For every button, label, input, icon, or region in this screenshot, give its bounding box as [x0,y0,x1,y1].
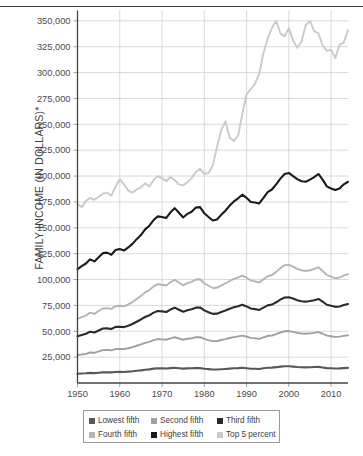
x-tick-label: 1950 [67,389,88,399]
legend-item[interactable]: Fourth fifth [89,431,151,439]
y-tick-label: 300,000 [37,68,71,78]
legend-swatch-icon [217,432,223,438]
x-tick-group: 1950196019701980199020002010 [67,383,341,399]
legend-item-label: Fourth fifth [98,431,137,439]
chart-legend: Lowest fifthSecond fifthThird fifthFourt… [83,410,280,443]
legend-item[interactable]: Third fifth [217,417,281,425]
y-tick-label: 25,000 [42,352,70,362]
x-tick-label: 1990 [236,389,257,399]
legend-swatch-icon [89,418,95,424]
y-tick-label: 50,000 [42,327,70,337]
legend-item[interactable]: Second fifth [151,417,217,425]
legend-item-label: Third fifth [226,417,260,425]
legend-swatch-icon [151,432,157,438]
legend-item-label: Top 5 percent [226,431,276,439]
series-line [78,297,349,336]
legend-swatch-icon [151,418,157,424]
y-tick-label: 75,000 [42,301,70,311]
legend-item[interactable]: Top 5 percent [217,431,281,439]
y-tick-label: 125,000 [37,249,71,259]
series-line [78,366,349,373]
series-line [78,173,349,269]
y-tick-label: 175,000 [37,197,71,207]
x-tick-label: 2010 [321,389,342,399]
series-line [78,21,349,207]
legend-item-label: Second fifth [160,417,203,425]
y-tick-label: 150,000 [37,223,71,233]
y-tick-label: 325,000 [37,42,71,52]
y-tick-label: 350,000 [37,16,71,26]
legend-item[interactable]: Lowest fifth [89,417,151,425]
y-tick-label: 225,000 [37,145,71,155]
x-tick-label: 2000 [278,389,299,399]
series-line [78,265,349,319]
y-tick-label: 250,000 [37,120,71,130]
legend-item[interactable]: Highest fifth [151,431,217,439]
legend-item-label: Highest fifth [160,431,203,439]
plot-canvas: 25,00050,00075,000100,000125,000150,0001… [0,0,363,456]
family-income-line-chart: FAMILY INCOME (IN DOLLARS)* 25,00050,000… [0,0,363,456]
series-line [78,331,349,355]
y-tick-label: 275,000 [37,94,71,104]
legend-swatch-icon [217,418,223,424]
y-tick-group: 25,00050,00075,000100,000125,000150,0001… [37,16,78,362]
legend-item-label: Lowest fifth [98,417,139,425]
series-group [78,21,349,374]
x-tick-label: 1960 [109,389,130,399]
x-tick-label: 1970 [152,389,173,399]
legend-swatch-icon [89,432,95,438]
y-tick-label: 200,000 [37,171,71,181]
y-tick-label: 100,000 [37,275,71,285]
x-tick-label: 1980 [194,389,215,399]
